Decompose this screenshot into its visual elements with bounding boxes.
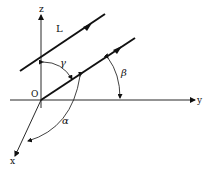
alpha-arc [28, 76, 80, 141]
gamma-arc [43, 62, 72, 79]
diagram-svg: z y x O L γ β α [0, 0, 206, 175]
x-axis [15, 100, 41, 156]
y-axis-label: y [196, 95, 203, 105]
line-l-direction-arrow [83, 23, 92, 31]
gamma-label: γ [60, 57, 66, 68]
x-axis-label: x [10, 156, 15, 166]
line-l-label: L [56, 23, 63, 34]
beta-label: β [120, 67, 127, 78]
beta-arc [108, 58, 120, 98]
origin-label: O [31, 89, 38, 99]
alpha-label: α [62, 115, 69, 126]
direction-angles-diagram: z y x O L γ β α [0, 0, 206, 175]
z-axis-label: z [39, 4, 44, 14]
